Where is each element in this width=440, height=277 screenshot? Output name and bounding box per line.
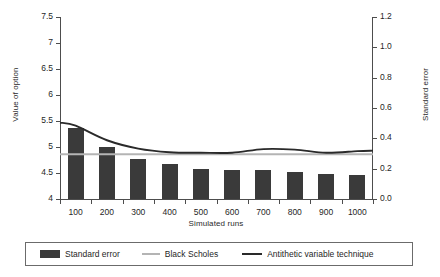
y-axis-left-tick-label: 7.5 [13,11,60,21]
y-axis-right-tick [373,47,377,48]
y-axis-left-tick-label: 5 [13,141,60,151]
line-swatch-light-icon [142,253,160,255]
x-axis-tick [185,200,186,204]
bar-swatch-icon [40,250,60,258]
x-axis-tick [217,200,218,204]
y-axis-right-tick [373,78,377,79]
x-axis-tick [154,200,155,204]
legend-item-black-scholes: Black Scholes [142,249,218,259]
legend-item-standard-error: Standard error [40,249,120,259]
y-axis-left-tick-label: 4 [13,193,60,203]
plot-area: 44.555.566.577.5 0.00.20.40.60.81.01.2 1… [60,17,373,199]
y-axis-left-tick-label: 5.5 [13,115,60,125]
y-axis-right-tick [373,138,377,139]
y-axis-right-tick-label: 1.0 [380,41,420,51]
x-axis-tick [60,200,61,204]
legend-label: Standard error [65,249,120,259]
chart-legend: Standard error Black Scholes Antithetic … [25,242,413,266]
y-axis-right-tick-label: 0.6 [380,102,420,112]
legend-item-antithetic-variable-technique: Antithetic variable technique [242,249,373,259]
y-axis-right-tick-label: 0.0 [380,193,420,203]
line-antithetic-variable-technique [60,123,373,153]
y-axis-right-title: Standard error [421,55,430,135]
y-axis-left-tick-label: 7 [13,37,60,47]
y-axis-right-tick-label: 0.4 [380,132,420,142]
x-axis-title: Simulated runs [59,219,373,228]
y-axis-left-tick-label: 4.5 [13,167,60,177]
line-swatch-dark-icon [242,253,262,255]
y-axis-left-tick-label: 6.5 [13,63,60,73]
x-axis-tick [248,200,249,204]
x-axis-tick [310,200,311,204]
y-axis-right-tick-label: 0.2 [380,163,420,173]
x-axis-tick [91,200,92,204]
legend-label: Antithetic variable technique [267,249,373,259]
x-axis-tick [279,200,280,204]
chart-figure: Value of option Standard error Simulated… [0,0,440,277]
y-axis-right-tick-label: 0.8 [380,72,420,82]
y-axis-right-tick [373,169,377,170]
x-axis-tick [342,200,343,204]
x-axis-tick [123,200,124,204]
y-axis-right-tick [373,17,377,18]
y-axis-right-tick-label: 1.2 [380,11,420,21]
x-axis-tick-label: 1000 [337,207,377,217]
legend-label: Black Scholes [165,249,218,259]
y-axis-right-tick [373,108,377,109]
y-axis-left-tick-label: 6 [13,89,60,99]
line-series-group [60,17,373,200]
x-axis-tick [373,200,374,204]
